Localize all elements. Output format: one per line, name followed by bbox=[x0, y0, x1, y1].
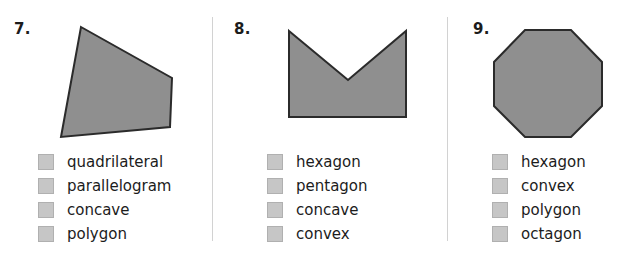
options-list-9: hexagon convex polygon octagon bbox=[492, 150, 586, 246]
option-label: octagon bbox=[521, 227, 582, 242]
checkbox-icon[interactable] bbox=[492, 178, 508, 194]
option-row[interactable]: octagon bbox=[492, 222, 586, 246]
checkbox-icon[interactable] bbox=[492, 154, 508, 170]
checkbox-icon[interactable] bbox=[492, 226, 508, 242]
option-label: polygon bbox=[521, 203, 581, 218]
checkbox-icon[interactable] bbox=[492, 202, 508, 218]
octagon-polygon bbox=[494, 30, 602, 137]
option-row[interactable]: polygon bbox=[492, 198, 586, 222]
geometry-worksheet: 7. quadrilateral parallelogram concave p… bbox=[0, 0, 623, 261]
option-row[interactable]: hexagon bbox=[492, 150, 586, 174]
option-label: hexagon bbox=[521, 155, 586, 170]
option-row[interactable]: convex bbox=[492, 174, 586, 198]
option-label: convex bbox=[521, 179, 575, 194]
problem-panel-9: 9. hexagon convex polygon octagon bbox=[447, 0, 623, 261]
